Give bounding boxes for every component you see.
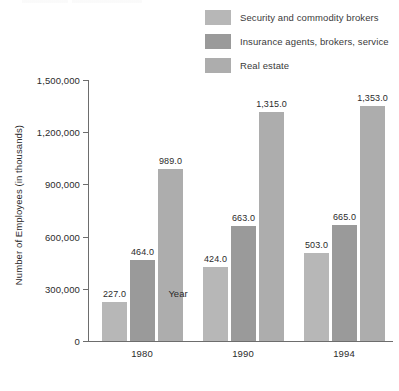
legend-item-security-and-commodity-brokers: Security and commodity brokers	[205, 8, 399, 26]
bar[interactable]	[203, 267, 228, 341]
bar-slot: 227.0	[102, 80, 127, 341]
legend-item-label: Real estate	[240, 60, 289, 71]
bar-group: 424.0663.01,315.0	[203, 80, 287, 341]
x-axis-title: Year	[128, 288, 228, 299]
y-axis-tick-mark	[83, 289, 88, 290]
x-axis-tick-label: 1994	[333, 348, 355, 359]
y-axis-tick-label: 900,000	[45, 179, 80, 190]
x-axis-tick-label: 1980	[131, 348, 153, 359]
y-axis-tick-label: 1,500,000	[37, 75, 80, 86]
bar-value-label: 1,353.0	[357, 93, 388, 103]
y-axis-tick-mark	[83, 184, 88, 185]
y-axis-tick-mark	[83, 237, 88, 238]
bar-slot: 665.0	[332, 80, 357, 341]
bar-slot: 1,353.0	[360, 80, 385, 341]
bar-value-label: 464.0	[131, 247, 154, 257]
y-axis-line	[88, 80, 89, 342]
bar[interactable]	[102, 302, 127, 341]
top-edge-artifact	[22, 0, 142, 3]
bar[interactable]	[259, 112, 284, 341]
x-axis-line	[88, 341, 393, 342]
y-axis-tick-mark	[83, 132, 88, 133]
bar[interactable]	[130, 260, 155, 341]
y-axis-title: Number of Employees (in thousands)	[13, 110, 24, 300]
bar-value-label: 989.0	[159, 156, 182, 166]
legend-item-label: Insurance agents, brokers, service	[240, 36, 389, 47]
bar-slot: 1,315.0	[259, 80, 284, 341]
y-axis-tick-label: 600,000	[45, 231, 80, 242]
legend-swatch-icon	[205, 58, 231, 73]
legend-item-label: Security and commodity brokers	[240, 12, 379, 23]
bar-slot: 663.0	[231, 80, 256, 341]
bar-group: 227.0464.0989.0	[102, 80, 186, 341]
bar-slot: 989.0	[158, 80, 183, 341]
y-axis-tick-mark	[83, 80, 88, 81]
legend-swatch-icon	[205, 34, 231, 49]
bar-group: 503.0665.01,353.0	[304, 80, 388, 341]
x-axis-tick-label: 1990	[232, 348, 254, 359]
bar-value-label: 227.0	[103, 289, 126, 299]
chart-legend: Security and commodity brokers Insurance…	[205, 8, 399, 80]
legend-swatch-icon	[205, 10, 231, 25]
bar[interactable]	[360, 106, 385, 341]
legend-item-real-estate: Real estate	[205, 56, 399, 74]
bar[interactable]	[304, 253, 329, 341]
bar[interactable]	[231, 226, 256, 341]
bar[interactable]	[158, 169, 183, 341]
y-axis-tick-mark	[83, 341, 88, 342]
bar-value-label: 424.0	[204, 254, 227, 264]
y-axis-tick-label: 1,200,000	[37, 127, 80, 138]
legend-item-insurance-agents-brokers-service: Insurance agents, brokers, service	[205, 32, 399, 50]
bar-slot: 464.0	[130, 80, 155, 341]
bar-value-label: 503.0	[305, 240, 328, 250]
y-axis-tick-label: 300,000	[45, 283, 80, 294]
bar-value-label: 663.0	[232, 213, 255, 223]
bar-value-label: 665.0	[333, 212, 356, 222]
plot-area: 0300,000600,000900,0001,200,0001,500,000…	[88, 80, 393, 342]
bar[interactable]	[332, 225, 357, 341]
y-axis-tick-label: 0	[75, 336, 80, 347]
bar-value-label: 1,315.0	[256, 99, 287, 109]
bar-slot: 503.0	[304, 80, 329, 341]
bar-slot: 424.0	[203, 80, 228, 341]
